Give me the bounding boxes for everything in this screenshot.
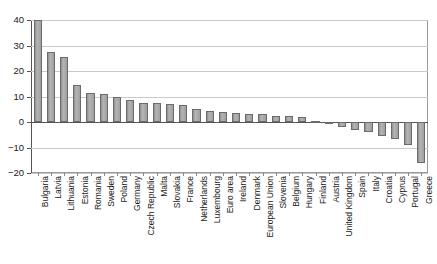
y-tick-label: −20 [8,168,24,178]
y-tick-label: 10 [13,92,24,102]
x-axis-label: European Union [266,176,275,237]
x-axis-label: Romania [94,176,103,210]
bars-layer [31,20,428,173]
bar [285,116,293,122]
bar [166,104,174,122]
y-tick-label: 30 [13,41,24,51]
x-axis-label: Ireland [239,176,248,202]
bar [338,122,346,127]
y-tick-label: 20 [13,66,24,76]
x-axis-label: Belgium [292,176,301,207]
x-axis-label: Cyprus [398,176,407,203]
bar [232,113,240,122]
x-axis-label: Denmark [253,176,262,210]
y-tick-label: −10 [8,143,24,153]
x-axis-label: Luxembourg [213,176,222,223]
x-axis-label: Greece [425,176,434,204]
x-axis-label: France [186,176,195,202]
x-axis-labels: BulgariaLatviaLithuaniaEstoniaRomaniaSwe… [31,176,428,262]
y-tick--20 [27,173,31,174]
x-axis-label: Finland [319,176,328,204]
bar [404,122,412,145]
bar [219,112,227,122]
bar [47,52,55,122]
x-axis-label: Slovakia [173,176,182,208]
bar [245,114,253,122]
bar [298,117,306,122]
bar [126,100,134,122]
bar [417,122,425,163]
bar [113,97,121,123]
x-axis-label: Portugal [411,176,420,208]
x-axis-label: United Kingdom [345,176,354,236]
x-axis-label: Germany [133,176,142,211]
x-axis-label: Italy [372,176,381,192]
x-axis-label: Slovenia [279,176,288,209]
bar [192,109,200,122]
x-axis-label: Sweden [107,176,116,207]
y-tick-label: 40 [13,15,24,25]
bar [34,20,42,122]
bar [258,114,266,122]
x-axis-label: Poland [120,176,129,202]
bar [100,94,108,122]
x-axis-label: Netherlands [200,176,209,222]
x-axis-label: Estonia [81,176,90,204]
x-axis-label: Hungary [305,176,314,208]
x-axis-label: Austria [332,176,341,202]
bar [272,116,280,122]
x-axis-label: Latvia [54,176,63,199]
x-axis-label: Croatia [385,176,394,203]
bar [351,122,359,130]
bar [86,93,94,122]
bar [364,122,372,132]
bar [325,122,333,124]
x-axis-label: Malta [160,176,169,197]
x-axis-label: Euro area [226,176,235,213]
x-axis-label: Bulgaria [41,176,50,207]
x-axis-label: Czech Republic [147,176,156,236]
bar [311,121,319,123]
bar [139,103,147,122]
bar [206,111,214,122]
x-axis-label: Lithuania [67,176,76,211]
x-axis-label: Spain [358,176,367,198]
bar-chart: 403020100−10−20 BulgariaLatviaLithuaniaE… [0,0,437,264]
bar [378,122,386,136]
bar [73,85,81,122]
bar [179,105,187,122]
bar [60,57,68,122]
bar [153,103,161,122]
y-tick-label: 0 [19,117,24,127]
bar [391,122,399,139]
